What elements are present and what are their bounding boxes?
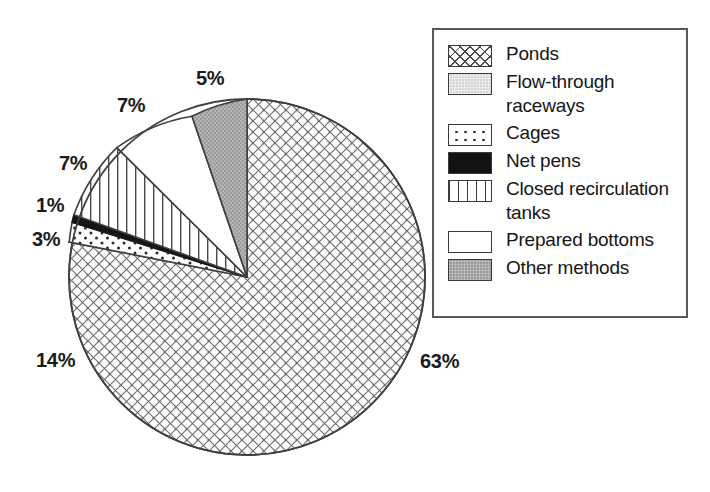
legend-label-prepared-bottoms: Prepared bottoms — [506, 228, 654, 252]
legend-item-flow-through-raceways[interactable]: Flow-through raceways — [448, 70, 686, 118]
legend-label-net-pens: Net pens — [506, 149, 580, 173]
legend-label-other-methods: Other methods — [506, 256, 629, 280]
legend-label-closed-recirculation-tanks: Closed recirculation tanks — [506, 177, 686, 225]
legend-item-closed-recirculation-tanks[interactable]: Closed recirculation tanks — [448, 177, 686, 225]
legend-label-ponds: Ponds — [506, 42, 559, 66]
legend-swatch-gray-icon — [448, 259, 492, 281]
slice-label-prepared-bottoms: 7% — [117, 94, 145, 117]
pie-chart-figure: 63% 14% 3% 1% 7% 7% 5% Ponds Flow-throug… — [0, 0, 710, 492]
slice-label-closed-recirculation-tanks: 7% — [59, 152, 87, 175]
legend-swatch-light-gray-icon — [448, 73, 492, 95]
legend-item-cages[interactable]: Cages — [448, 121, 686, 146]
legend-box: Ponds Flow-through raceways Cages Net pe… — [432, 28, 688, 318]
legend-label-flow-through-raceways: Flow-through raceways — [506, 70, 686, 118]
legend-swatch-vertical-stripes-icon — [448, 180, 492, 202]
slice-label-net-pens: 1% — [36, 194, 64, 217]
legend-swatch-crosshatch-icon — [448, 45, 492, 67]
slice-label-other-methods: 5% — [196, 67, 224, 90]
slice-label-cages: 3% — [32, 228, 60, 251]
legend-item-ponds[interactable]: Ponds — [448, 42, 686, 67]
slice-label-ponds: 63% — [420, 350, 459, 373]
legend-item-prepared-bottoms[interactable]: Prepared bottoms — [448, 228, 686, 253]
legend-swatch-black-icon — [448, 152, 492, 174]
legend-swatch-dots-icon — [448, 124, 492, 146]
legend-swatch-white-icon — [448, 231, 492, 253]
legend-item-net-pens[interactable]: Net pens — [448, 149, 686, 174]
legend-item-other-methods[interactable]: Other methods — [448, 256, 686, 281]
slice-label-flow-through-raceways: 14% — [36, 349, 75, 372]
legend-list: Ponds Flow-through raceways Cages Net pe… — [434, 30, 686, 281]
legend-label-cages: Cages — [506, 121, 560, 145]
